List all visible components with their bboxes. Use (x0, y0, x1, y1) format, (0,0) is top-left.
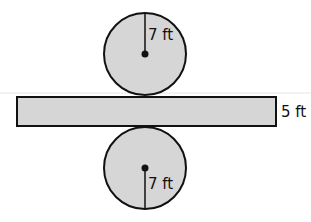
top-center-dot (142, 51, 149, 58)
rectangle-height-label: 5 ft (281, 103, 306, 121)
top-circle: 7 ft (104, 13, 186, 95)
top-radius-label: 7 ft (148, 26, 173, 44)
bottom-center-dot (142, 165, 149, 172)
lateral-rectangle: 5 ft (17, 97, 306, 126)
bottom-circle: 7 ft (104, 127, 186, 209)
bottom-radius-label: 7 ft (148, 175, 173, 193)
cylinder-net-diagram: 7 ft 5 ft 7 ft (0, 0, 311, 222)
